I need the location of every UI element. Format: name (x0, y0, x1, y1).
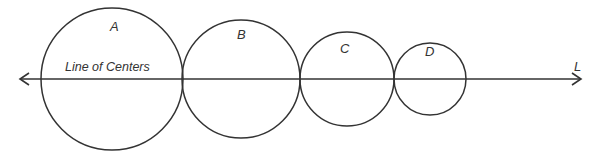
line-of-centers-label: Line of Centers (65, 60, 150, 74)
line-end-label: L (574, 59, 581, 74)
label-a: A (109, 19, 119, 34)
label-c: C (340, 41, 350, 56)
label-d: D (425, 44, 434, 59)
tangent-circles-diagram: A B C D Line of Centers L (0, 0, 599, 151)
label-b: B (237, 27, 246, 42)
